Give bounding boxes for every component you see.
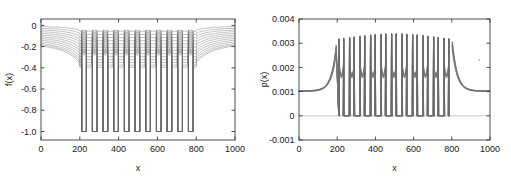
left-x-tick-label: 0 <box>38 144 43 154</box>
right-x-tick-label: 0 <box>296 144 301 154</box>
right-x-tick-label: 800 <box>444 144 459 154</box>
left-x-axis-title: x <box>136 163 141 173</box>
right-y-axis-title: p(x) <box>259 72 269 88</box>
right-series-path <box>299 34 490 116</box>
right-y-tick-label: 0.002 <box>272 63 295 73</box>
left-series-path <box>41 40 235 132</box>
left-x-tick-label: 800 <box>189 144 204 154</box>
right-x-axis-title: x <box>392 163 397 173</box>
left-series-path <box>41 45 235 131</box>
right-y-tick-label: 0 <box>289 111 294 121</box>
left-plot-svg: 0-0.2-0.4-0.6-0.8-1.0 02004006008001000 … <box>0 0 256 184</box>
left-y-tick-label: -0.4 <box>21 63 37 73</box>
left-x-tick-label: 600 <box>150 144 165 154</box>
right-y-tick-label: 0.004 <box>272 14 295 24</box>
right-data-curves <box>299 34 490 116</box>
left-y-tick-label: -0.6 <box>21 84 37 94</box>
right-y-tick-label: 0.003 <box>272 38 295 48</box>
right-y-tick-label: -0.001 <box>269 135 295 145</box>
left-x-tick-label: 400 <box>111 144 126 154</box>
left-y-tick-label: -1.0 <box>21 127 37 137</box>
right-x-tick-label: 200 <box>330 144 345 154</box>
right-y-tick-labels: 0.0040.0030.0020.0010-0.001 <box>269 14 295 145</box>
left-x-tick-label: 200 <box>72 144 87 154</box>
left-series-path <box>41 43 235 132</box>
left-y-tick-label: 0 <box>31 21 36 31</box>
chart-panel-right: 0.0040.0030.0020.0010-0.001 020040060080… <box>255 0 511 184</box>
chart-panel-left: 0-0.2-0.4-0.6-0.8-1.0 02004006008001000 … <box>0 0 256 184</box>
left-series-path <box>41 33 235 131</box>
right-x-tick-label: 600 <box>406 144 421 154</box>
stray-speck-marker <box>478 59 480 61</box>
right-plot-svg: 0.0040.0030.0020.0010-0.001 020040060080… <box>255 0 511 184</box>
left-y-tick-label: -0.8 <box>21 105 37 115</box>
right-axes-frame <box>299 19 490 140</box>
right-y-tick-label: 0.001 <box>272 87 295 97</box>
left-series-path <box>41 36 235 131</box>
left-y-tick-labels: 0-0.2-0.4-0.6-0.8-1.0 <box>21 21 37 137</box>
left-data-curves <box>41 26 235 131</box>
left-axes-frame <box>41 19 235 140</box>
left-x-tick-labels: 02004006008001000 <box>38 144 245 154</box>
left-series-path <box>41 44 235 131</box>
left-y-axis-title: f(x) <box>4 73 14 86</box>
left-series-path <box>41 30 235 132</box>
right-x-tick-label: 400 <box>368 144 383 154</box>
figure-container: 0-0.2-0.4-0.6-0.8-1.0 02004006008001000 … <box>0 0 511 184</box>
left-y-tick-label: -0.2 <box>21 42 37 52</box>
left-x-tick-label: 1000 <box>225 144 245 154</box>
right-x-tick-labels: 02004006008001000 <box>296 144 500 154</box>
right-x-tick-label: 1000 <box>480 144 500 154</box>
